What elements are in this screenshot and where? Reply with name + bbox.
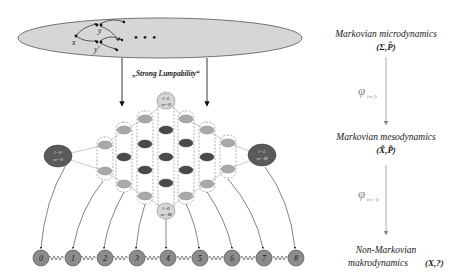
top-corner-state: l=L m=0 [157, 93, 175, 109]
svg-text:m=0: m=0 [161, 102, 171, 107]
svg-text:m=M: m=M [256, 156, 268, 161]
svg-text:4: 4 [166, 254, 170, 263]
chain-node: 5 [192, 250, 208, 266]
level3-title-line2: makrodynamics [348, 258, 408, 268]
svg-text:0: 0 [39, 254, 43, 263]
svg-text:l=0: l=0 [54, 150, 62, 155]
svg-text:8: 8 [294, 254, 298, 263]
chain-node: 4 [160, 250, 176, 266]
chain-nodes: 0 1 2 3 4 5 6 7 8 [33, 250, 304, 266]
map1-symbol: φ [358, 83, 365, 98]
chain-node: 0 [33, 250, 49, 266]
level3-formula: (X,?) [425, 258, 444, 268]
chain-node: 1 [65, 250, 81, 266]
level2-formula: (X̃,P̃) [376, 145, 396, 155]
map2-subscript: (m+l) [367, 197, 379, 202]
state-x-label: x [71, 38, 76, 47]
lattice: l=L m=0 l=0 m=M l=0 m=0 l=L m=M [44, 92, 276, 219]
svg-text:m=0: m=0 [53, 157, 63, 162]
svg-text:3: 3 [134, 254, 139, 263]
chain-node: 8 [288, 250, 304, 266]
svg-text:1: 1 [71, 254, 75, 263]
svg-text:6: 6 [230, 254, 234, 263]
level2-title: Markovian mesodynamics [335, 132, 436, 142]
strong-lumpability-label: „Strong Lumpability“ [132, 69, 200, 78]
hierarchy-column: Markovian microdynamics (Σ,P̂) φ (m,l) M… [334, 29, 444, 268]
chain-node: 7 [256, 250, 272, 266]
svg-text:5: 5 [198, 254, 202, 263]
level1-formula: (Σ,P̂) [376, 41, 395, 52]
micro-state-space: x y y' • • • [18, 18, 302, 58]
svg-text:m=M: m=M [160, 212, 172, 217]
map1-subscript: (m,l) [367, 94, 377, 100]
level3-title-line1: Non-Markovian [355, 245, 417, 255]
level1-title: Markovian microdynamics [334, 29, 437, 39]
state-y-prime-label: y' [93, 45, 100, 54]
map2-symbol: φ [358, 186, 365, 201]
ellipsis: • • • [133, 32, 157, 43]
chain-node: 2 [97, 250, 113, 266]
bottom-corner-state: l=0 m=M [157, 203, 175, 219]
svg-text:2: 2 [103, 254, 107, 263]
diagram-canvas: x y y' • • • „Strong Lumpability“ [0, 0, 466, 278]
svg-text:l=0: l=0 [162, 206, 170, 211]
state-y-label: y [97, 26, 102, 35]
svg-text:l=L: l=L [162, 96, 170, 101]
dark-lattice-nodes [117, 126, 214, 187]
right-corner-state: l=L m=M [248, 144, 276, 166]
left-corner-state: l=0 m=0 [44, 145, 72, 167]
chain-node: 3 [129, 250, 145, 266]
svg-text:l=L: l=L [258, 149, 266, 154]
chain-node: 6 [224, 250, 240, 266]
